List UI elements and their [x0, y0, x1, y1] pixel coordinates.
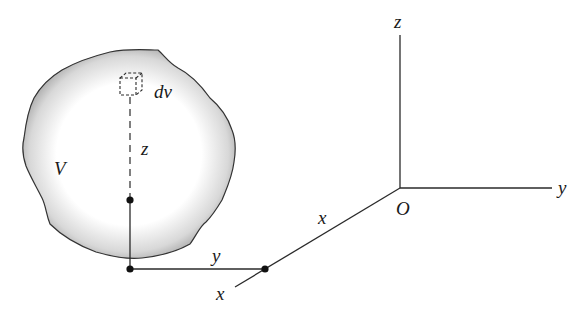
- y-distance-label: y: [210, 245, 221, 266]
- x-axis-label: x: [215, 283, 225, 304]
- z-axis-label: z: [393, 11, 402, 32]
- origin-label: O: [396, 198, 410, 219]
- y-axis-label: y: [556, 177, 567, 198]
- z-distance-label: z: [140, 138, 149, 159]
- x-axis-line: [235, 188, 400, 287]
- x-axis-point: [261, 265, 268, 272]
- projection-point-floor: [126, 265, 133, 272]
- x-distance-label: x: [317, 207, 327, 228]
- volume-centroid-diagram: dv V z y x x O z y: [0, 0, 584, 311]
- dv-label: dv: [154, 81, 173, 102]
- volume-body: [23, 50, 236, 259]
- projection-point-top: [126, 196, 133, 203]
